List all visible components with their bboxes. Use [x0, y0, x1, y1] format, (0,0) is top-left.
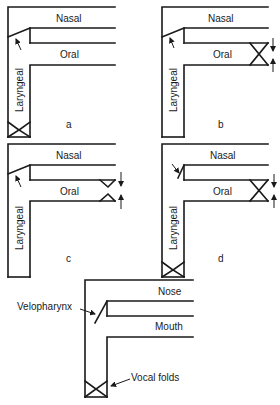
nose-label: Nose: [158, 286, 182, 297]
velopharynx: [95, 301, 107, 323]
nasal-label: Nasal: [56, 13, 82, 24]
panel-c: Nasal Oral Laryngeal c: [8, 144, 121, 277]
panel-caption: b: [218, 119, 224, 130]
velum: [8, 165, 30, 174]
oral-closure: [250, 43, 268, 65]
nasal-label: Nasal: [208, 13, 234, 24]
velum: [8, 28, 30, 37]
velum-arrow-icon: [172, 164, 179, 173]
panel-caption: d: [218, 253, 224, 264]
vocal-folds-label: Vocal folds: [131, 372, 179, 383]
panel-a: Nasal Oral Laryngeal a: [8, 7, 115, 137]
panel-d: Nasal Oral Laryngeal d: [162, 144, 274, 277]
glottis-closed: [162, 262, 184, 277]
nasal-label: Nasal: [56, 150, 82, 161]
laryngeal-label: Laryngeal: [168, 68, 179, 112]
velum: [162, 28, 184, 37]
vocal-folds-pointer-icon: [111, 379, 130, 386]
nasal-label: Nasal: [210, 150, 236, 161]
oral-closure: [250, 180, 268, 201]
oral-label: Oral: [60, 186, 79, 197]
oral-label: Oral: [60, 49, 79, 60]
laryngeal-label: Laryngeal: [14, 68, 25, 112]
oral-label: Oral: [213, 49, 232, 60]
vocal-tract-diagram: Nasal Oral Laryngeal a Nasal Oral Laryng…: [0, 0, 280, 405]
panel-b: Nasal Oral Laryngeal b: [162, 7, 273, 137]
velopharynx-pointer-icon: [80, 309, 95, 314]
oral-label: Oral: [213, 186, 232, 197]
velum-arrow-icon: [16, 176, 21, 187]
oral-partial-constriction: [100, 180, 115, 201]
laryngeal-label: Laryngeal: [168, 206, 179, 250]
velum-raised: [178, 165, 184, 178]
vocal-folds: [85, 381, 107, 397]
panel-caption: c: [66, 253, 71, 264]
glottis-closed: [8, 122, 30, 137]
velopharynx-label: Velopharynx: [17, 301, 72, 312]
laryngeal-label: Laryngeal: [14, 206, 25, 250]
key-panel: Nose Mouth Velopharynx Vocal folds: [17, 280, 193, 397]
velum-arrow-icon: [170, 38, 174, 48]
panel-caption: a: [66, 119, 72, 130]
velum-arrow-icon: [16, 39, 21, 50]
mouth-label: Mouth: [155, 321, 183, 332]
